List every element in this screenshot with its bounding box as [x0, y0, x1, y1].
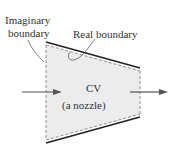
imaginary-leader-line	[28, 40, 44, 62]
real-boundary-label: Real boundary	[73, 28, 137, 40]
imaginary-label-line2: boundary	[8, 27, 50, 39]
cv-label: CV	[86, 82, 101, 94]
cv-sub-label: (a nozzle)	[62, 99, 106, 111]
imaginary-label-line1: Imaginary	[5, 14, 50, 26]
